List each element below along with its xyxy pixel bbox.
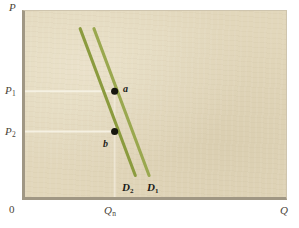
point-a-label: a: [123, 84, 128, 94]
curve-d1-sub: 1: [155, 187, 159, 195]
y-axis-label: P: [9, 2, 16, 13]
plot-area: a b D2 D1: [22, 10, 287, 200]
y-tick-p2-sub: 2: [12, 130, 16, 139]
x-tick-qn-sub: n: [112, 209, 116, 218]
curve-d2-sub: 2: [130, 187, 134, 195]
plot-canvas: [25, 11, 286, 197]
x-axis-label: Q: [280, 205, 288, 216]
x-tick-label-qn: Qn: [104, 205, 116, 216]
y-tick-p1-base: P: [5, 84, 12, 96]
curve-d2-label: D2: [122, 182, 133, 193]
demand-curve-figure: a b D2 D1 P Q 0 P1 P2 Qn: [0, 0, 299, 228]
point-a-marker: [111, 88, 118, 95]
y-tick-p2-base: P: [5, 125, 12, 137]
curve-d1-label: D1: [147, 182, 158, 193]
y-tick-p1-sub: 1: [12, 89, 16, 98]
x-tick-qn-base: Q: [104, 204, 112, 216]
curve-d2-base: D: [122, 181, 130, 193]
demand-curve-d2: [80, 29, 135, 176]
point-b-marker: [111, 128, 118, 135]
curve-d1-base: D: [147, 181, 155, 193]
point-b-label: b: [103, 139, 108, 149]
demand-curve-d1: [94, 29, 149, 176]
y-tick-label-p2: P2: [5, 126, 15, 137]
origin-label: 0: [9, 204, 15, 215]
y-tick-label-p1: P1: [5, 85, 15, 96]
